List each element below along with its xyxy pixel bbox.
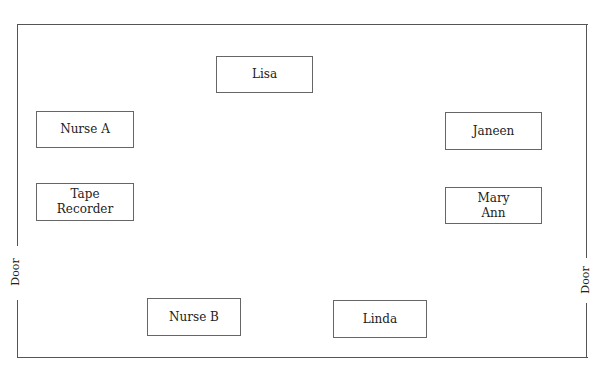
wall-top	[17, 24, 588, 25]
right-door-label: Door	[580, 260, 592, 300]
seat-label: Nurse B	[169, 310, 219, 325]
seat-label: Lisa	[252, 67, 277, 82]
seat-nurse-a: Nurse A	[36, 111, 134, 148]
wall-right-lower	[586, 303, 587, 358]
wall-bottom	[17, 357, 588, 358]
wall-left-lower	[17, 300, 18, 358]
seat-nurse-b: Nurse B	[147, 298, 241, 336]
tape-recorder: Tape Recorder	[36, 183, 134, 221]
seat-label: Janeen	[473, 124, 515, 139]
wall-right-upper	[586, 24, 587, 258]
wall-left-upper	[17, 24, 18, 246]
seat-mary-ann: Mary Ann	[445, 187, 542, 224]
seat-label: Nurse A	[60, 122, 110, 137]
left-door-label: Door	[10, 252, 22, 292]
seat-label: Mary Ann	[478, 191, 510, 221]
seat-label: Tape Recorder	[57, 187, 113, 217]
seat-lisa: Lisa	[216, 56, 313, 93]
seat-label: Linda	[363, 312, 397, 327]
seat-janeen: Janeen	[445, 112, 542, 150]
seat-linda: Linda	[333, 300, 427, 338]
